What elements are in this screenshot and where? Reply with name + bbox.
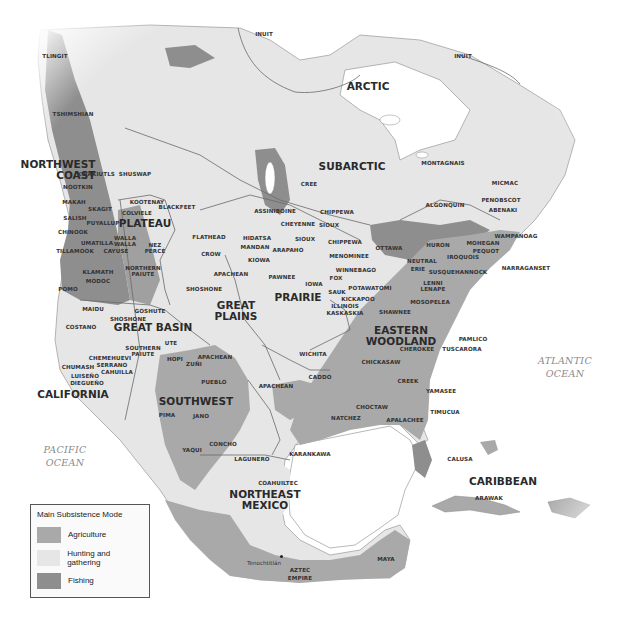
label-mohegan: MOHEGAN bbox=[466, 241, 499, 247]
label-colville: COLVIELE bbox=[122, 211, 152, 217]
label-chippewa-north: CHIPPEWA bbox=[320, 210, 354, 216]
label-tsimshian: TSHIMSHIAN bbox=[53, 112, 94, 118]
label-aztec-empire: AZTEC EMPIRE bbox=[288, 566, 312, 583]
label-chemehuevi: CHEMEHUEVI bbox=[89, 356, 131, 362]
label-goshute: GOSHUTE bbox=[135, 309, 166, 315]
label-algonquin: ALGONQUIN bbox=[426, 203, 465, 209]
label-salish: SALISH bbox=[63, 216, 86, 222]
label-mandan: MANDAN bbox=[241, 245, 270, 251]
ocean-atlantic: ATLANTIC OCEAN bbox=[538, 355, 592, 381]
label-cahuilla: CAHUILLA bbox=[101, 370, 133, 376]
label-chinook: CHINOOK bbox=[58, 230, 88, 236]
label-arawak: ARAWAK bbox=[475, 496, 503, 502]
label-arapaho: ARAPAHO bbox=[272, 248, 303, 254]
label-caddo: CADDO bbox=[309, 375, 332, 381]
label-nez-perce: NEZ PERCÉ bbox=[145, 243, 166, 254]
label-shoshone-basin: SHOSHONE bbox=[110, 317, 146, 323]
label-apachean-sw: APACHEAN bbox=[198, 355, 233, 361]
label-mosopelea: MOSOPELEA bbox=[410, 300, 450, 306]
label-erie: ERIE bbox=[411, 267, 425, 273]
label-diegueno: DIEGUEÑO bbox=[70, 381, 104, 387]
label-kwakiutls: KWAKIUTLS bbox=[77, 172, 115, 178]
legend-swatch-fishing bbox=[37, 573, 61, 589]
label-puyallup: PUYALLUP bbox=[87, 221, 120, 227]
label-flathead: FLATHEAD bbox=[192, 235, 225, 241]
label-apachean-plains: APACHEAN bbox=[214, 272, 249, 278]
label-nootkin: NOOTKIN bbox=[63, 185, 93, 191]
label-micmac: MICMAC bbox=[492, 181, 518, 187]
region-arctic: ARCTIC bbox=[347, 81, 390, 92]
label-wichita: WICHITA bbox=[299, 352, 327, 358]
label-karankawa: KARANKAWA bbox=[289, 452, 331, 458]
label-creek: CREEK bbox=[398, 379, 419, 385]
label-illinois: ILLINOIS bbox=[331, 304, 359, 310]
label-apachean-south: APACHEAN bbox=[259, 384, 294, 390]
label-makah: MAKAH bbox=[62, 200, 86, 206]
legend-swatch-agriculture bbox=[37, 527, 61, 543]
label-yaqui: YAQUI bbox=[182, 448, 202, 454]
label-iowa: IOWA bbox=[305, 282, 322, 288]
label-wampanoag: WAMPANOAG bbox=[495, 234, 538, 240]
region-great-basin: GREAT BASIN bbox=[114, 322, 192, 333]
label-costano: COSTANO bbox=[66, 325, 97, 331]
label-inuit-west: INUIT bbox=[255, 32, 273, 38]
region-prairie: PRAIRIE bbox=[275, 292, 322, 303]
label-hidatsa: HIDATSA bbox=[243, 236, 271, 242]
label-sauk: SAUK bbox=[328, 290, 345, 296]
label-cayuse: CAYUSE bbox=[104, 249, 129, 255]
label-ute: UTE bbox=[165, 341, 177, 347]
label-pima: PIMA bbox=[159, 413, 175, 419]
region-plateau: PLATEAU bbox=[119, 218, 171, 229]
label-zuni: ZUÑI bbox=[186, 362, 202, 368]
label-jano: JANO bbox=[193, 414, 209, 420]
region-subarctic: SUBARCTIC bbox=[319, 161, 386, 172]
legend-item-fishing: Fishing bbox=[37, 569, 143, 592]
map-legend: Main Subsistence Mode Agriculture Huntin… bbox=[30, 504, 150, 598]
region-southwest: SOUTHWEST bbox=[159, 396, 233, 407]
label-winnebago: WINNEBAGO bbox=[336, 268, 376, 274]
label-tuscarora: TUSCARORA bbox=[442, 347, 481, 353]
label-hopi: HOPI bbox=[167, 357, 183, 363]
label-maya: MAYA bbox=[377, 557, 395, 563]
label-abenaki: ABENAKI bbox=[489, 208, 518, 214]
label-lagunero: LAGUNERO bbox=[234, 457, 269, 463]
label-narraganset: NARRAGANSET bbox=[502, 266, 550, 272]
region-caribbean: CARIBBEAN bbox=[469, 476, 537, 487]
label-inuit-east: INUIT bbox=[454, 54, 472, 60]
label-huron: HURON bbox=[426, 243, 449, 249]
label-northern-paiute: NORTHERN PAIUTE bbox=[125, 266, 161, 277]
region-great-plains: GREAT PLAINS bbox=[215, 300, 258, 322]
label-kaskaskia: KASKASKIA bbox=[326, 311, 363, 317]
label-potawatomi: POTAWATOMI bbox=[348, 286, 391, 292]
label-maidu: MAIDU bbox=[82, 307, 104, 313]
label-pawnee: PAWNEE bbox=[269, 275, 296, 281]
label-sioux-south: SIOUX bbox=[295, 237, 315, 243]
label-menominee: MENOMINEE bbox=[329, 254, 369, 260]
label-umatilla: UMATILLA bbox=[81, 241, 113, 247]
label-susquehannock: SUSQUEHANNOCK bbox=[429, 270, 488, 276]
legend-item-hunting-gathering: Hunting and gathering bbox=[37, 546, 143, 569]
legend-title: Main Subsistence Mode bbox=[37, 510, 143, 519]
legend-swatch-hunting-gathering bbox=[37, 550, 60, 566]
label-choctaw: CHOCTAW bbox=[356, 405, 388, 411]
label-klamath: KLAMATH bbox=[83, 270, 114, 276]
label-blackfeet: BLACKFEET bbox=[159, 205, 196, 211]
label-kickapoo: KICKAPOO bbox=[341, 297, 375, 303]
city-marker-tenochtitlan bbox=[280, 555, 283, 558]
label-ottawa: OTTAWA bbox=[375, 246, 402, 252]
label-pueblo: PUEBLO bbox=[201, 380, 226, 386]
label-cheyenne: CHEYENNE bbox=[281, 222, 315, 228]
legend-label-fishing: Fishing bbox=[68, 576, 94, 585]
label-sioux-north: SIOUX bbox=[319, 223, 339, 229]
label-luiseno: LUISEÑO bbox=[71, 374, 99, 380]
label-skagit: SKAGIT bbox=[88, 207, 112, 213]
label-assiniboine: ASSINIBOINE bbox=[254, 209, 296, 215]
label-chippewa-south: CHIPPEWA bbox=[328, 240, 362, 246]
label-penobscot: PENOBSCOT bbox=[481, 198, 520, 204]
label-natchez: NATCHEZ bbox=[331, 416, 361, 422]
label-crow: CROW bbox=[201, 252, 221, 258]
label-tenochtitlan: Tenochtitlán bbox=[247, 560, 281, 566]
label-tillamook: TILLAMOOK bbox=[56, 249, 94, 255]
label-timucua: TIMUCUA bbox=[430, 410, 460, 416]
label-serrano: SERRANO bbox=[97, 363, 128, 369]
